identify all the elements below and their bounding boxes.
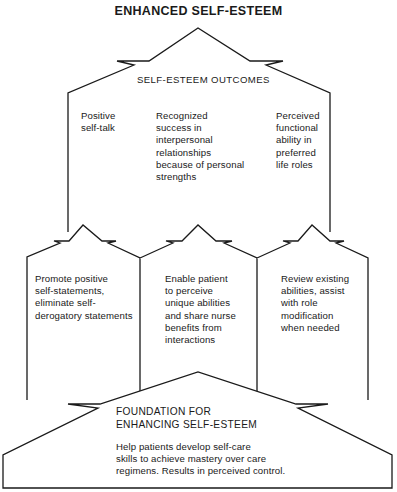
outcome-item-recognized-success: Recognized success in interpersonal rela…	[156, 110, 244, 183]
foundation-body: Help patients develop self-care skills t…	[116, 441, 285, 478]
intervention-promote-positive: Promote positive self-statements, elimin…	[35, 273, 133, 322]
outcome-item-positive-self-talk: Positive self-talk	[81, 110, 115, 134]
diagram-title: ENHANCED SELF-ESTEEM	[0, 4, 397, 18]
outcomes-heading: SELF-ESTEEM OUTCOMES	[137, 74, 270, 85]
foundation-heading: FOUNDATION FOR ENHANCING SELF-ESTEEM	[116, 405, 257, 431]
outcome-item-perceived-ability: Perceived functional ability in preferre…	[276, 110, 320, 171]
intervention-enable-patient: Enable patient to perceive unique abilit…	[165, 273, 236, 346]
intervention-review-abilities: Review existing abilities, assist with r…	[281, 273, 349, 334]
